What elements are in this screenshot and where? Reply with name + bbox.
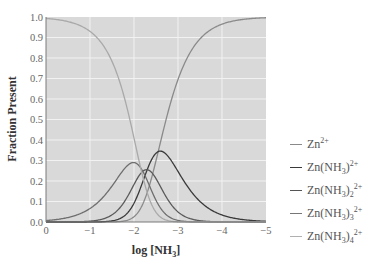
y-tick-label: 0.4 bbox=[30, 135, 44, 146]
y-tick-label: 0.9 bbox=[30, 32, 43, 43]
legend-label: Zn(NH3)42+ bbox=[307, 229, 362, 244]
legend-item: Zn(NH3)2+ bbox=[290, 156, 362, 179]
legend-swatch bbox=[290, 167, 302, 169]
x-tick-label: −3 bbox=[172, 225, 183, 236]
y-axis-label: Fraction Present bbox=[5, 76, 19, 161]
legend-swatch bbox=[290, 144, 302, 146]
y-tick-label: 0.6 bbox=[30, 94, 43, 105]
y-tick-label: 0.8 bbox=[30, 53, 43, 64]
y-tick-label: 0.3 bbox=[30, 155, 43, 166]
y-axis-ticks: 0.00.10.20.30.40.50.60.70.80.91.0 bbox=[30, 12, 44, 228]
x-axis-label: log [NH3] bbox=[132, 243, 180, 259]
legend-item: Zn2+ bbox=[290, 133, 362, 156]
x-axis-ticks: 0−1−2−3−4−5 bbox=[43, 225, 271, 236]
legend-item: Zn(NH3)42+ bbox=[290, 225, 362, 248]
x-tick-label: −2 bbox=[128, 225, 139, 236]
y-tick-label: 0.7 bbox=[30, 73, 43, 84]
legend-label: Zn(NH3)2+ bbox=[307, 160, 358, 175]
x-tick-label: 0 bbox=[43, 225, 48, 236]
y-tick-label: 1.0 bbox=[30, 12, 43, 23]
x-tick-label: −5 bbox=[260, 225, 271, 236]
x-tick-label: −1 bbox=[84, 225, 95, 236]
legend: Zn2+Zn(NH3)2+Zn(NH3)22+Zn(NH3)32+Zn(NH3)… bbox=[290, 133, 362, 248]
y-tick-label: 0.1 bbox=[30, 196, 43, 207]
legend-swatch bbox=[290, 190, 302, 192]
y-tick-label: 0.5 bbox=[30, 114, 43, 125]
legend-item: Zn(NH3)32+ bbox=[290, 202, 362, 225]
x-tick-label: −4 bbox=[216, 225, 228, 236]
legend-label: Zn(NH3)32+ bbox=[307, 206, 362, 221]
legend-label: Zn(NH3)22+ bbox=[307, 183, 362, 198]
legend-swatch bbox=[290, 236, 302, 238]
legend-label: Zn2+ bbox=[307, 137, 329, 152]
y-tick-label: 0.2 bbox=[30, 176, 43, 187]
y-tick-label: 0.0 bbox=[30, 217, 43, 228]
legend-item: Zn(NH3)22+ bbox=[290, 179, 362, 202]
legend-swatch bbox=[290, 213, 302, 215]
